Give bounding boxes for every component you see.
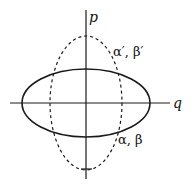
phase-space-diagram: p q α′, β′ α, β xyxy=(0,0,193,188)
q-axis-label: q xyxy=(173,95,182,111)
dashed-ellipse-label: α′, β′ xyxy=(113,44,144,59)
p-axis-label: p xyxy=(89,9,98,25)
solid-ellipse-label: α, β xyxy=(118,132,143,147)
